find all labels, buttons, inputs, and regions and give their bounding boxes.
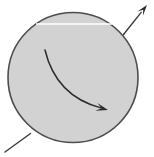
axis-head-segment (124, 12, 142, 34)
sphere-shape (8, 13, 138, 143)
rotating-sphere-diagram (0, 0, 154, 157)
figure-container (0, 0, 154, 157)
axis-tail-segment (5, 134, 31, 153)
